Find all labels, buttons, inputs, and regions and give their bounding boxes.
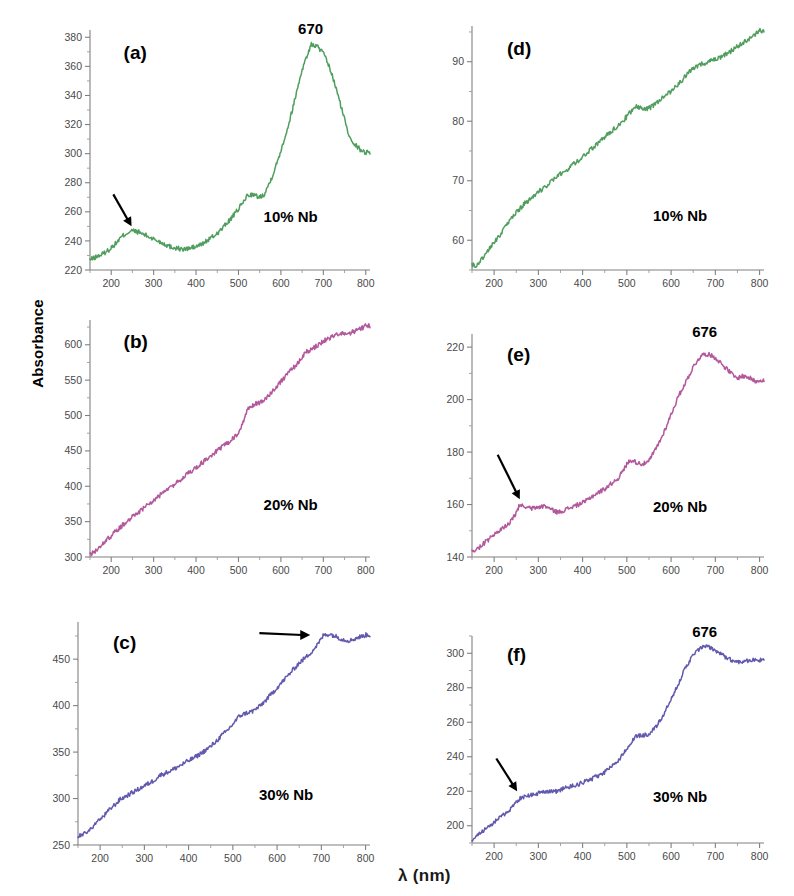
y-tick-label: 200 xyxy=(446,393,464,405)
y-tick-label: 180 xyxy=(446,446,464,458)
series-label: 30% Nb xyxy=(653,788,707,805)
y-tick-label: 450 xyxy=(52,653,70,665)
y-tick-label: 280 xyxy=(446,681,464,693)
absorbance-figure: Absorbance λ (nm) 2003004005006007008002… xyxy=(0,0,794,896)
x-tick-label: 400 xyxy=(574,277,592,289)
y-tick-label: 240 xyxy=(64,235,82,247)
series-label: 10% Nb xyxy=(653,207,707,224)
x-tick-label: 200 xyxy=(102,277,120,289)
annotation-arrow-shaft xyxy=(498,455,517,493)
y-tick-label: 450 xyxy=(64,444,82,456)
y-tick-label: 360 xyxy=(64,60,82,72)
x-tick-label: 700 xyxy=(707,850,725,862)
y-tick-label: 300 xyxy=(64,147,82,159)
panel-a: 2003004005006007008002202402602803003203… xyxy=(18,4,388,304)
panel-letter: (a) xyxy=(124,42,147,63)
peak-label: 670 xyxy=(298,20,323,37)
panel-e-plot: 200300400500600700800140160180200220(e)2… xyxy=(412,302,782,587)
y-tick-label: 60 xyxy=(452,234,464,246)
y-tick-label: 350 xyxy=(64,515,82,527)
peak-label: 676 xyxy=(692,623,717,640)
peak-label: 676 xyxy=(692,323,717,340)
y-tick-label: 320 xyxy=(64,118,82,130)
annotation-arrow-head xyxy=(300,630,310,640)
x-tick-label: 800 xyxy=(357,852,375,864)
annotation-arrow-shaft xyxy=(259,633,302,635)
x-tick-label: 500 xyxy=(230,277,248,289)
spectrum-curve-f xyxy=(472,645,764,841)
spectrum-curve-d xyxy=(472,29,764,268)
y-tick-label: 70 xyxy=(452,174,464,186)
y-tick-label: 300 xyxy=(52,792,70,804)
y-tick-label: 400 xyxy=(52,699,70,711)
x-tick-label: 600 xyxy=(662,850,680,862)
x-tick-label: 700 xyxy=(315,564,333,576)
panel-f-plot: 200300400500600700800200220240260280300(… xyxy=(412,600,782,885)
series-label: 30% Nb xyxy=(259,786,313,803)
panel-letter: (e) xyxy=(507,344,530,365)
panel-letter: (d) xyxy=(507,38,531,59)
y-tick-label: 350 xyxy=(52,746,70,758)
y-tick-label: 260 xyxy=(446,716,464,728)
panel-d: 20030040050060070080060708090(d)10% Nb xyxy=(412,4,782,304)
panel-d-plot: 20030040050060070080060708090(d)10% Nb xyxy=(412,4,782,304)
y-tick-label: 140 xyxy=(446,551,464,563)
y-tick-label: 260 xyxy=(64,205,82,217)
x-tick-label: 200 xyxy=(485,850,503,862)
y-tick-label: 500 xyxy=(64,409,82,421)
x-tick-label: 400 xyxy=(574,564,592,576)
y-tick-label: 160 xyxy=(446,498,464,510)
x-tick-label: 400 xyxy=(187,564,205,576)
x-tick-label: 200 xyxy=(485,564,503,576)
x-tick-label: 400 xyxy=(187,277,205,289)
y-tick-label: 300 xyxy=(64,551,82,563)
series-label: 10% Nb xyxy=(264,208,318,225)
x-tick-label: 500 xyxy=(618,850,636,862)
x-tick-label: 700 xyxy=(315,277,333,289)
spectrum-curve-a xyxy=(90,42,370,259)
x-tick-label: 200 xyxy=(485,277,503,289)
x-tick-label: 600 xyxy=(272,564,290,576)
panel-b: 2003004005006007008003003504004505005506… xyxy=(18,302,388,587)
panel-c-plot: 200300400500600700800250300350400450(c)3… xyxy=(18,600,388,885)
y-tick-label: 220 xyxy=(446,341,464,353)
panel-e: 200300400500600700800140160180200220(e)2… xyxy=(412,302,782,587)
y-tick-label: 220 xyxy=(446,785,464,797)
panel-letter: (f) xyxy=(507,644,526,665)
spectrum-curve-c xyxy=(78,633,370,838)
series-label: 20% Nb xyxy=(653,498,707,515)
x-tick-label: 700 xyxy=(707,277,725,289)
x-tick-label: 500 xyxy=(230,564,248,576)
y-tick-label: 340 xyxy=(64,89,82,101)
panel-b-plot: 2003004005006007008003003504004505005506… xyxy=(18,302,388,587)
x-tick-label: 800 xyxy=(357,277,375,289)
x-tick-label: 700 xyxy=(707,564,725,576)
panel-a-plot: 2003004005006007008002202402602803003203… xyxy=(18,4,388,304)
x-tick-label: 200 xyxy=(102,564,120,576)
y-tick-label: 220 xyxy=(64,264,82,276)
x-tick-label: 300 xyxy=(145,564,163,576)
x-tick-label: 600 xyxy=(268,852,286,864)
spectrum-curve-b xyxy=(90,324,370,556)
x-tick-label: 400 xyxy=(180,852,198,864)
panel-letter: (c) xyxy=(113,632,136,653)
x-tick-label: 500 xyxy=(618,564,636,576)
y-tick-label: 250 xyxy=(52,839,70,851)
y-tick-label: 240 xyxy=(446,750,464,762)
x-tick-label: 300 xyxy=(145,277,163,289)
y-tick-label: 600 xyxy=(64,338,82,350)
y-tick-label: 90 xyxy=(452,55,464,67)
panel-letter: (b) xyxy=(124,331,148,352)
x-tick-label: 300 xyxy=(136,852,154,864)
y-tick-label: 400 xyxy=(64,480,82,492)
series-label: 20% Nb xyxy=(264,496,318,513)
y-tick-label: 200 xyxy=(446,819,464,831)
x-tick-label: 300 xyxy=(530,850,548,862)
x-tick-label: 600 xyxy=(272,277,290,289)
x-tick-label: 300 xyxy=(530,277,548,289)
x-tick-label: 500 xyxy=(618,277,636,289)
y-tick-label: 380 xyxy=(64,31,82,43)
x-tick-label: 600 xyxy=(662,277,680,289)
panel-f: 200300400500600700800200220240260280300(… xyxy=(412,600,782,885)
x-tick-label: 400 xyxy=(574,850,592,862)
